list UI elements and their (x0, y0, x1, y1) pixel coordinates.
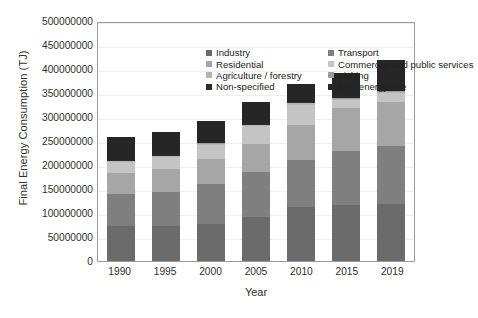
legend-label: Residential (216, 59, 263, 70)
bar-segment[interactable] (107, 173, 135, 195)
y-tick-label: 200000000 (1, 161, 93, 171)
legend-label: Industry (216, 47, 250, 58)
bar-segment[interactable] (107, 137, 135, 160)
legend-label: Commercial and public services (338, 59, 473, 70)
bar-segment[interactable] (242, 126, 270, 144)
y-tick-label: 400000000 (1, 65, 93, 75)
bar-segment[interactable] (287, 207, 315, 261)
legend-swatch-icon (328, 72, 334, 78)
legend-label: Fishing (338, 70, 369, 81)
bar-segment[interactable] (107, 194, 135, 226)
y-tick-label: 350000000 (1, 89, 93, 99)
legend: IndustryTransportResidentialCommercial a… (206, 47, 478, 93)
legend-item[interactable]: Agriculture / forestry (206, 70, 324, 81)
y-tick-label: 100000000 (1, 209, 93, 219)
y-tick-label: 150000000 (1, 185, 93, 195)
legend-item[interactable]: Non-specified (206, 81, 324, 92)
x-tick-label: 2005 (242, 266, 270, 277)
y-tick-label: 0 (1, 257, 93, 267)
plot-area: IndustryTransportResidentialCommercial a… (97, 22, 415, 262)
bar-segment[interactable] (242, 217, 270, 261)
bar-segment[interactable] (197, 224, 225, 261)
bar-segment[interactable] (152, 169, 180, 192)
legend-item[interactable]: Non-energy use (328, 81, 478, 92)
legend-swatch-icon (328, 50, 334, 56)
y-tick-label: 500000000 (1, 17, 93, 27)
bar-segment[interactable] (377, 102, 405, 146)
bar-segment[interactable] (287, 105, 315, 126)
bar-segment[interactable] (332, 151, 360, 206)
bar-segment[interactable] (152, 192, 180, 226)
bar-segment[interactable] (287, 125, 315, 160)
y-tick-label: 450000000 (1, 41, 93, 51)
x-axis-title: Year (97, 286, 415, 298)
legend-swatch-icon (328, 61, 334, 67)
bar-segment[interactable] (152, 132, 180, 156)
legend-swatch-icon (206, 50, 212, 56)
legend-swatch-icon (206, 84, 212, 90)
bar-segment[interactable] (377, 93, 405, 102)
x-tick-label: 1995 (151, 266, 179, 277)
legend-swatch-icon (206, 72, 212, 78)
legend-label: Non-energy use (338, 81, 406, 92)
x-axis-tick-labels: 1990199520002005201020152019 (97, 266, 415, 282)
bar-segment[interactable] (242, 102, 270, 124)
legend-label: Agriculture / forestry (216, 70, 302, 81)
bar-segment[interactable] (107, 226, 135, 261)
bar-segment[interactable] (152, 157, 180, 169)
legend-item[interactable]: Transport (328, 47, 478, 58)
bar-segment[interactable] (287, 160, 315, 208)
y-tick-label: 250000000 (1, 137, 93, 147)
legend-label: Non-specified (216, 81, 275, 92)
bar-segment[interactable] (152, 226, 180, 261)
bar-segment[interactable] (107, 162, 135, 173)
bar-segment[interactable] (242, 144, 270, 172)
bar-segment[interactable] (197, 121, 225, 143)
bar-segment[interactable] (197, 159, 225, 184)
y-tick-label: 50000000 (1, 233, 93, 243)
x-tick-label: 2010 (287, 266, 315, 277)
legend-item[interactable]: Commercial and public services (328, 58, 478, 69)
x-tick-label: 2000 (197, 266, 225, 277)
bar-segment[interactable] (377, 204, 405, 261)
bar-segment[interactable] (332, 100, 360, 108)
bar-segment[interactable] (332, 108, 360, 150)
bar-1990[interactable] (107, 23, 135, 261)
bar-segment[interactable] (242, 172, 270, 217)
legend-swatch-icon (328, 84, 334, 90)
legend-swatch-icon (206, 61, 212, 67)
bar-segment[interactable] (197, 184, 225, 223)
legend-item[interactable]: Industry (206, 47, 324, 58)
figure-caption (0, 303, 433, 318)
legend-label: Transport (338, 47, 379, 58)
legend-item[interactable]: Residential (206, 58, 324, 69)
y-axis-tick-labels: 0500000001000000001500000002000000002500… (0, 0, 93, 280)
bar-segment[interactable] (197, 145, 225, 159)
bar-segment[interactable] (332, 205, 360, 261)
legend-item[interactable]: Fishing (328, 70, 478, 81)
x-tick-label: 2019 (378, 266, 406, 277)
y-tick-label: 300000000 (1, 113, 93, 123)
x-tick-label: 2015 (333, 266, 361, 277)
x-tick-label: 1990 (106, 266, 134, 277)
bar-segment[interactable] (377, 146, 405, 205)
bar-1995[interactable] (152, 23, 180, 261)
